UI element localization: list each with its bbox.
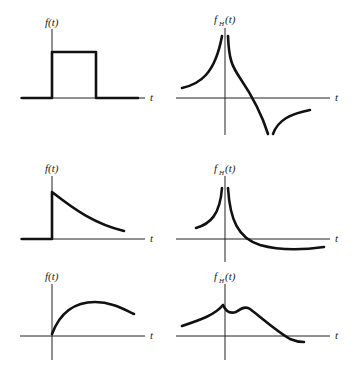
hilbert-curve-left-branch: [196, 188, 222, 228]
panel-2-right: f H (t) t: [176, 162, 339, 262]
y-axis-label: f(t): [45, 162, 59, 175]
panel-1-right: f H (t) t: [176, 13, 339, 135]
x-axis-label: t: [150, 329, 154, 341]
panel-1-left: f(t) t: [20, 16, 154, 103]
x-axis-label: t: [335, 232, 339, 244]
smooth-curve: [52, 302, 134, 334]
panel-3-left: f(t) t: [20, 270, 154, 360]
y-axis-label: f(t): [45, 16, 59, 29]
y-axis-label-arg: (t): [225, 13, 236, 26]
hilbert-transform-figure: f(t) t f H (t) t f(t) t f H (t) t f(t: [0, 0, 359, 375]
y-axis-label: f(t): [45, 270, 59, 283]
x-axis-label: t: [150, 91, 154, 103]
y-axis-label-sub: H: [218, 169, 225, 177]
exponential-curve: [22, 192, 124, 239]
x-axis-label: t: [335, 329, 339, 341]
panel-2-left: f(t) t: [20, 162, 154, 244]
y-axis-label-sub: H: [218, 20, 225, 28]
y-axis-label-arg: (t): [225, 270, 236, 283]
hilbert-curve-middle-branch: [228, 36, 268, 134]
x-axis-label: t: [150, 232, 154, 244]
pulse-curve: [22, 52, 138, 98]
hilbert-curve-right-branch: [228, 188, 324, 249]
x-axis-label: t: [335, 91, 339, 103]
hilbert-curve-left-branch: [182, 36, 222, 88]
hilbert-curve-right-branch: [273, 110, 310, 134]
panel-3-right: f H (t) t: [176, 270, 339, 360]
y-axis-label-arg: (t): [225, 162, 236, 175]
y-axis-label-sub: H: [218, 277, 225, 285]
